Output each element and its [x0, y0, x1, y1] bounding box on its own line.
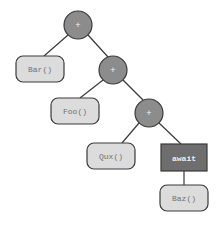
leaf-label: Bar(): [28, 65, 52, 74]
await-node: await: [161, 144, 207, 171]
leaf-label: Foo(): [63, 107, 87, 116]
leaf-label: Baz(): [172, 194, 196, 203]
leaf-node-foo: Foo(): [51, 98, 99, 124]
operator-label: +: [110, 65, 115, 75]
edge-op2-op3: [123, 80, 143, 100]
leaf-node-bar: Bar(): [16, 56, 64, 82]
expression-tree-diagram: + + + Bar() Foo() Qux() await Baz(): [0, 0, 219, 226]
edge-op3-qux: [122, 123, 139, 143]
operator-node-3: +: [135, 99, 163, 127]
operator-node-2: +: [99, 56, 127, 84]
leaf-node-qux: Qux(): [87, 143, 135, 169]
leaf-label: Qux(): [99, 152, 123, 161]
edge-op1-op2: [88, 35, 108, 57]
operator-label: +: [75, 20, 80, 30]
leaf-node-baz: Baz(): [160, 185, 208, 211]
operator-node-1: +: [64, 11, 92, 39]
edge-op3-await: [159, 123, 181, 144]
edge-op1-bar: [44, 35, 68, 56]
await-label: await: [172, 154, 196, 163]
operator-label: +: [146, 108, 151, 118]
edge-op2-foo: [80, 80, 103, 98]
